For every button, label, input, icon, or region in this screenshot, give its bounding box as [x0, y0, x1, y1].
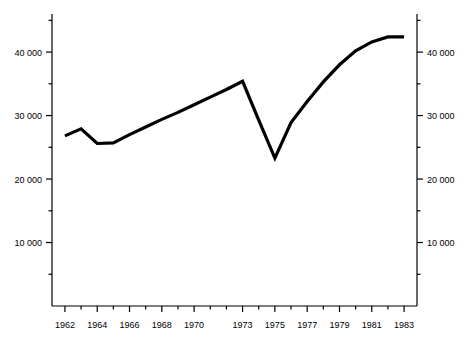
y-tick-label-left: 40 000	[14, 48, 42, 58]
x-tick-label: 1977	[297, 320, 317, 330]
tick-labels: 10 00010 00020 00020 00030 00030 00040 0…	[14, 48, 454, 330]
chart-container: 10 00010 00020 00020 00030 00030 00040 0…	[0, 0, 469, 348]
y-tick-label-right: 20 000	[427, 175, 455, 185]
x-tick-label: 1966	[120, 320, 140, 330]
tick-marks	[46, 20, 423, 312]
x-tick-label: 1968	[152, 320, 172, 330]
line-chart: 10 00010 00020 00020 00030 00030 00040 0…	[0, 0, 469, 348]
axes	[52, 14, 417, 306]
x-tick-label: 1964	[87, 320, 107, 330]
x-tick-label: 1981	[362, 320, 382, 330]
y-tick-label-right: 30 000	[427, 111, 455, 121]
y-tick-label-left: 30 000	[14, 111, 42, 121]
x-tick-label: 1975	[265, 320, 285, 330]
x-tick-label: 1970	[184, 320, 204, 330]
y-tick-label-right: 10 000	[427, 238, 455, 248]
x-tick-label: 1973	[233, 320, 253, 330]
y-tick-label-left: 10 000	[14, 238, 42, 248]
x-tick-label: 1962	[55, 320, 75, 330]
y-tick-label-left: 20 000	[14, 175, 42, 185]
x-tick-label: 1983	[394, 320, 414, 330]
y-tick-label-right: 40 000	[427, 48, 455, 58]
data-series	[65, 37, 404, 158]
x-tick-label: 1979	[329, 320, 349, 330]
series-line	[65, 37, 404, 158]
